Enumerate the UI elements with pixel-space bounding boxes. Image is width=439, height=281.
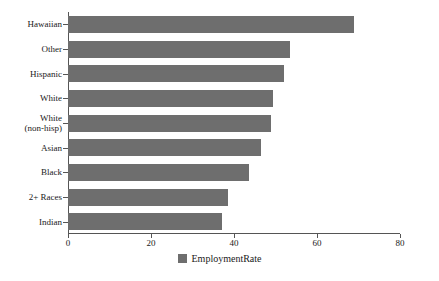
legend-label: EmploymentRate: [192, 253, 262, 264]
y-axis-tick-label: Other: [42, 44, 63, 54]
y-axis-tick-mark: [63, 123, 68, 124]
bar-fill: [68, 139, 261, 156]
x-axis-tick-label: 0: [66, 238, 71, 249]
bar-fill: [68, 213, 222, 230]
y-axis-tick-mark: [63, 74, 68, 75]
legend-color-swatch: [178, 254, 187, 263]
y-axis-tick-mark: [63, 172, 68, 173]
bar: [68, 41, 290, 58]
x-axis-tick-label: 80: [396, 238, 405, 249]
x-axis-tick-label: 40: [230, 238, 239, 249]
y-axis-tick-label: White (non-hisp): [25, 113, 63, 133]
bar: [68, 213, 222, 230]
bar-fill: [68, 65, 284, 82]
y-axis-tick-label: Black: [41, 167, 62, 177]
bar: [68, 189, 228, 206]
bar-fill: [68, 115, 271, 132]
bar-fill: [68, 164, 249, 181]
y-axis-tick-label: Hawaiian: [28, 19, 62, 29]
chart-legend: EmploymentRate: [0, 253, 439, 264]
bar: [68, 164, 249, 181]
bar: [68, 65, 284, 82]
y-axis-tick-mark: [63, 24, 68, 25]
y-axis-tick-mark: [63, 148, 68, 149]
bar-fill: [68, 189, 228, 206]
bar: [68, 16, 354, 33]
bar-fill: [68, 90, 273, 107]
bar: [68, 139, 261, 156]
bar-fill: [68, 41, 290, 58]
y-axis-tick-mark: [63, 197, 68, 198]
bar-fill: [68, 16, 354, 33]
bar: [68, 115, 271, 132]
y-axis-tick-label: 2+ Races: [29, 192, 62, 202]
y-axis-tick-mark: [63, 222, 68, 223]
bar: [68, 90, 273, 107]
plot-area: [68, 12, 400, 234]
y-axis-tick-mark: [63, 49, 68, 50]
y-axis-tick-mark: [63, 98, 68, 99]
y-axis-tick-label: Indian: [39, 217, 62, 227]
x-axis-tick-label: 20: [147, 238, 156, 249]
y-axis-tick-label: White: [40, 93, 62, 103]
y-axis-tick-label: Asian: [41, 143, 62, 153]
y-axis-tick-label: Hispanic: [30, 69, 62, 79]
y-axis-labels: HawaiianOtherHispanicWhiteWhite (non-his…: [0, 12, 62, 234]
x-axis-tick-label: 60: [313, 238, 322, 249]
bar-chart: HawaiianOtherHispanicWhiteWhite (non-his…: [0, 0, 439, 281]
